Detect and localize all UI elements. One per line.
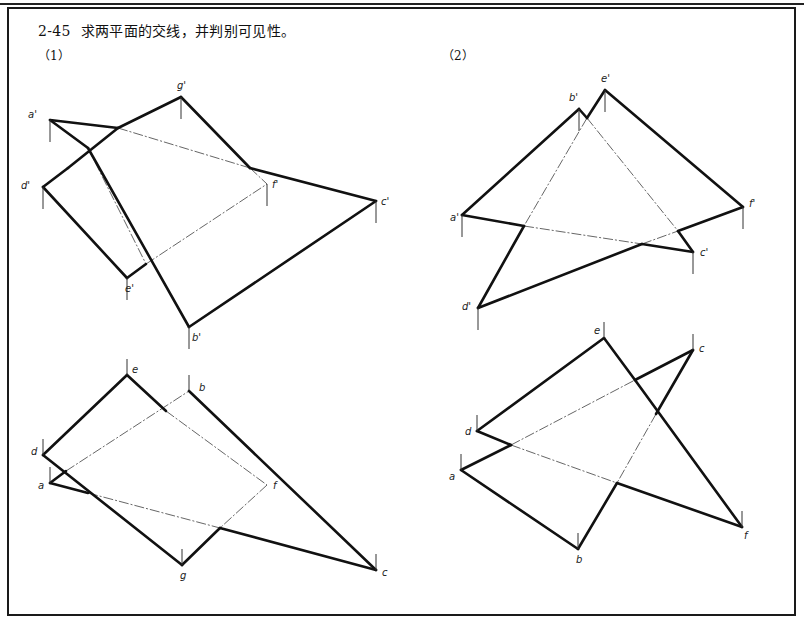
visible-edge xyxy=(461,470,578,549)
visible-edge xyxy=(477,431,511,445)
subfigure-2: e'b'a'f'c'd'ecdabf xyxy=(449,73,755,565)
visible-edge xyxy=(604,338,635,380)
visible-edge xyxy=(678,207,743,231)
vertex-label: c xyxy=(382,567,388,578)
visible-edge xyxy=(127,375,166,411)
visible-edge xyxy=(127,264,146,278)
vertex-label: d xyxy=(31,446,38,457)
vertex-label: f' xyxy=(749,198,755,209)
hidden-edge xyxy=(66,391,189,471)
vertex-label: b' xyxy=(192,332,201,343)
visible-edge xyxy=(88,148,189,327)
vertex-label: a xyxy=(449,471,455,482)
hidden-edge xyxy=(511,380,635,445)
vertex-label: a' xyxy=(450,212,459,223)
visible-edge xyxy=(478,244,642,308)
subfigure-2-front-view: e'b'a'f'c'd' xyxy=(450,73,755,330)
visible-edge xyxy=(461,445,511,470)
vertex-label: e' xyxy=(125,283,134,294)
vertex-label: g xyxy=(180,570,186,581)
visible-edge xyxy=(43,375,127,455)
hidden-edge xyxy=(166,411,267,485)
vertex-label: d' xyxy=(21,180,30,191)
subfigure-1: a'g'd'f'c'e'b'ebdafgc xyxy=(21,80,389,581)
hidden-edge xyxy=(146,184,267,264)
vertex-label: f xyxy=(273,480,278,491)
visible-edge xyxy=(579,109,587,118)
vertex-label: e' xyxy=(601,73,610,84)
vertex-label: c xyxy=(699,343,705,354)
visible-edge xyxy=(635,380,742,527)
projection-drawings: a'g'd'f'c'e'b'ebdafgce'b'a'f'c'd'ecdabf xyxy=(0,0,804,625)
visible-edge xyxy=(605,90,743,207)
vertex-label: b xyxy=(576,554,582,565)
hidden-edge xyxy=(220,485,267,528)
visible-edge xyxy=(68,128,118,168)
hidden-edge xyxy=(642,231,678,244)
vertex-label: f xyxy=(744,530,749,541)
vertex-label: d' xyxy=(462,301,471,312)
vertex-label: d xyxy=(465,426,472,437)
vertex-label: e xyxy=(132,364,138,375)
vertex-label: b xyxy=(199,382,205,393)
visible-edge xyxy=(462,215,524,226)
visible-edge xyxy=(189,201,376,327)
hidden-edge xyxy=(587,118,678,231)
visible-edge xyxy=(477,338,604,431)
visible-edge xyxy=(250,168,376,201)
vertex-label: a xyxy=(38,480,44,491)
visible-edge xyxy=(43,455,182,565)
hidden-edge xyxy=(524,226,642,244)
subfigure-2-top-view: ecdabf xyxy=(449,322,749,565)
subfigure-1-top-view: ebdafgc xyxy=(31,359,388,581)
visible-edge xyxy=(182,528,220,565)
vertex-label: f' xyxy=(272,179,278,190)
visible-edge xyxy=(578,483,617,549)
visible-edge xyxy=(478,226,524,308)
vertex-label: e xyxy=(594,325,600,336)
hidden-edge xyxy=(511,445,617,483)
visible-edge xyxy=(189,391,376,570)
vertex-label: a' xyxy=(28,109,37,120)
hidden-edge xyxy=(524,118,587,226)
hidden-edge xyxy=(617,414,656,483)
vertex-label: b' xyxy=(569,92,578,103)
visible-edge xyxy=(642,244,693,252)
visible-edge xyxy=(118,97,181,128)
visible-edge xyxy=(617,483,742,527)
hidden-edge xyxy=(88,493,220,528)
vertex-label: c' xyxy=(700,247,708,258)
visible-edge xyxy=(587,90,605,118)
vertex-label: c' xyxy=(381,196,389,207)
visible-edge xyxy=(43,168,68,187)
vertex-label: g' xyxy=(177,80,186,91)
subfigure-1-front-view: a'g'd'f'c'e'b' xyxy=(21,80,389,349)
visible-edge xyxy=(43,187,127,278)
